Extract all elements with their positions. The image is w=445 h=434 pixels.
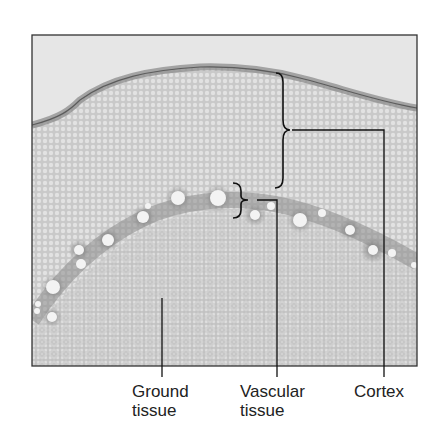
label-cortex-line1: Cortex xyxy=(354,382,404,401)
label-vascular-tissue: Vascular tissue xyxy=(240,382,305,420)
label-vascular-line1: Vascular xyxy=(240,382,305,401)
stem-micrograph-figure xyxy=(0,0,445,434)
micrograph-image xyxy=(32,35,417,366)
label-ground-line1: Ground xyxy=(132,382,189,401)
label-vascular-line2: tissue xyxy=(240,401,305,420)
label-ground-line2: tissue xyxy=(132,401,189,420)
label-ground-tissue: Ground tissue xyxy=(132,382,189,420)
label-cortex: Cortex xyxy=(354,382,404,401)
